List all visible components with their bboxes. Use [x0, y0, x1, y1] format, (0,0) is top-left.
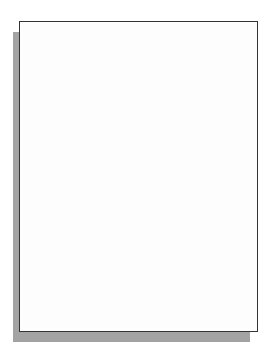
referral-tree-diagram [0, 0, 273, 350]
